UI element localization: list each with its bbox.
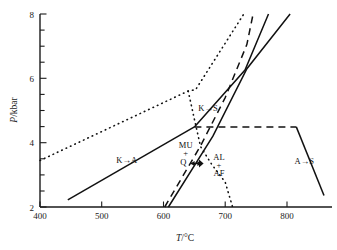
x-tick-label-400: 400 [33,211,47,221]
x-tick-label-800: 800 [280,211,294,221]
x-tick-label-500: 500 [95,211,109,221]
x-axis-title: T/°C [176,233,194,243]
curve-reaction-steep-solid [168,14,290,207]
label-K-to-A: K→A [116,155,138,165]
x-axis-tick-labels: 400 500 600 700 800 [33,211,294,221]
label-Q: Q [180,157,186,167]
x-tick-label-700: 700 [218,211,232,221]
phase-diagram-figure: 8 6 4 2 400 500 600 700 800 P/kbar T/°C [0,0,337,250]
y-tick-label-6: 6 [30,74,35,84]
label-AF: AF [214,168,225,178]
x-axis-major-ticks [40,202,287,208]
x-tick-label-600: 600 [157,211,171,221]
curve-metastable-dotted-rising [40,14,244,161]
label-A-to-S: A→S [295,156,315,166]
label-K-to-S: K→S [198,103,218,113]
y-axis-tick-labels: 8 6 4 2 [30,10,35,213]
y-tick-label-8: 8 [30,10,35,20]
y-tick-label-4: 4 [30,138,35,148]
y-axis-title: P/kbar [9,97,19,124]
plot-canvas: 8 6 4 2 400 500 600 700 800 P/kbar T/°C [0,0,337,250]
